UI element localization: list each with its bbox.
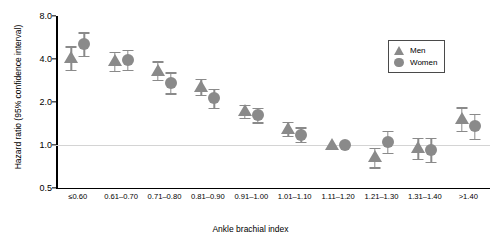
data-point-women	[339, 139, 351, 151]
y-axis-tick-label: 1.0	[39, 141, 52, 150]
chart-legend: MenWomen	[388, 40, 445, 73]
error-bar-cap	[383, 131, 394, 132]
data-point-women	[78, 38, 90, 50]
data-point-women	[425, 144, 437, 156]
y-axis-tick-mark	[52, 187, 56, 188]
error-bar-cap	[296, 142, 307, 143]
error-bar-cap	[79, 56, 90, 57]
error-bar-cap	[370, 167, 381, 168]
x-axis-title: Ankle brachial index	[0, 224, 501, 234]
error-bar-cap	[166, 72, 177, 73]
error-bar-cap	[153, 80, 164, 81]
data-point-men	[281, 122, 295, 134]
y-axis-tick-label: 0.5	[39, 184, 52, 193]
legend-item-men: Men	[393, 45, 437, 56]
y-axis-title: Hazard ratio (95% confidence interval)	[13, 7, 23, 187]
triangle-marker-icon	[394, 46, 404, 55]
x-axis-tick-label: 1.01–1.10	[278, 192, 312, 201]
circle-marker-icon	[394, 58, 404, 68]
y-axis-tick-label: 8.0	[39, 12, 52, 21]
error-bar-cap	[426, 138, 437, 139]
data-point-women	[295, 129, 307, 141]
error-bar-cap	[122, 50, 133, 51]
data-point-men	[194, 80, 208, 92]
error-bar-cap	[196, 95, 207, 96]
y-axis-tick-mark	[52, 144, 56, 145]
error-bar-cap	[383, 153, 394, 154]
x-axis-tick-label: ≤0.60	[68, 192, 87, 201]
legend-symbol	[393, 58, 405, 68]
error-bar-cap	[426, 162, 437, 163]
x-axis-tick-label: 0.61–0.70	[104, 192, 138, 201]
legend-label: Men	[410, 46, 426, 55]
data-point-men	[411, 141, 425, 153]
y-axis-tick-mark	[52, 101, 56, 102]
error-bar-cap	[66, 46, 77, 47]
x-axis-tick-label: 1.31–1.40	[408, 192, 442, 201]
data-point-men	[325, 138, 339, 150]
y-axis-tick-mark	[52, 15, 56, 16]
error-bar-cap	[109, 52, 120, 53]
legend-symbol	[393, 46, 405, 55]
data-point-women	[382, 136, 394, 148]
error-bar-cap	[79, 32, 90, 33]
x-axis-tick-label: 0.71–0.80	[148, 192, 182, 201]
x-axis-tick-label: 1.11–1.20	[321, 192, 354, 201]
error-bar-cap	[122, 70, 133, 71]
data-point-women	[469, 120, 481, 132]
data-point-women	[165, 77, 177, 89]
x-axis-tick-label: 1.21–1.30	[365, 192, 399, 201]
error-bar-cap	[153, 61, 164, 62]
data-point-men	[64, 51, 78, 63]
error-bar-cap	[166, 93, 177, 94]
error-bar-cap	[469, 139, 480, 140]
error-bar-cap	[109, 71, 120, 72]
x-axis-tick-label: >1.40	[459, 192, 478, 201]
x-axis-tick-label: 0.81–0.90	[191, 192, 225, 201]
legend-label: Women	[410, 58, 437, 67]
error-bar-cap	[252, 122, 263, 123]
y-axis-tick-label: 4.0	[39, 55, 52, 64]
error-bar-cap	[66, 70, 77, 71]
error-bar-cap	[370, 148, 381, 149]
error-bar-cap	[413, 138, 424, 139]
error-bar-cap	[413, 159, 424, 160]
data-point-women	[122, 54, 134, 66]
error-bar-cap	[209, 89, 220, 90]
data-point-men	[368, 150, 382, 162]
data-point-men	[108, 54, 122, 66]
error-bar-cap	[456, 131, 467, 132]
error-bar-cap	[469, 114, 480, 115]
y-axis-tick-mark	[52, 58, 56, 59]
error-bar-cap	[209, 108, 220, 109]
data-point-men	[238, 104, 252, 116]
hazard-ratio-chart: Hazard ratio (95% confidence interval) 0…	[0, 0, 501, 243]
error-bar-cap	[456, 107, 467, 108]
data-point-women	[252, 109, 264, 121]
data-point-women	[208, 92, 220, 104]
legend-item-women: Women	[393, 57, 437, 68]
data-point-men	[455, 112, 469, 124]
error-bar-cap	[283, 136, 294, 137]
error-bar-cap	[239, 118, 250, 119]
y-axis-tick-label: 2.0	[39, 98, 52, 107]
data-point-men	[151, 64, 165, 76]
x-axis-tick-label: 0.91–1.00	[234, 192, 268, 201]
